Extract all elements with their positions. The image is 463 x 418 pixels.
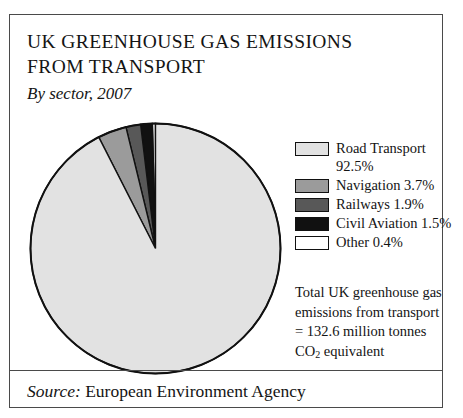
legend-item: Road Transport92.5% — [295, 139, 445, 175]
legend-item: Other 0.4% — [295, 233, 445, 251]
legend-swatch — [295, 236, 329, 250]
note-line: = 132.6 million tonnes — [295, 322, 455, 342]
legend-item: Navigation 3.7% — [295, 176, 445, 194]
note-line: Total UK greenhouse gas — [295, 283, 455, 303]
source-label: Source: — [27, 381, 81, 401]
legend-label-text: Road Transport — [336, 140, 426, 156]
chart-figure: UK GREENHOUSE GAS EMISSIONS FROM TRANSPO… — [9, 14, 443, 408]
co2-subscript: 2 — [315, 349, 320, 360]
chart-total-note: Total UK greenhouse gasemissions from tr… — [295, 283, 455, 362]
legend-swatch — [295, 217, 329, 231]
legend-swatch — [295, 198, 329, 212]
legend-label: Railways 1.9% — [336, 195, 424, 213]
chart-subtitle: By sector, 2007 — [27, 82, 327, 106]
legend-swatch — [295, 142, 329, 156]
title-block: UK GREENHOUSE GAS EMISSIONS FROM TRANSPO… — [27, 29, 327, 106]
source-value: European Environment Agency — [85, 381, 306, 401]
legend-label-percent: 92.5% — [336, 157, 426, 175]
legend-label: Road Transport92.5% — [336, 139, 426, 175]
note-line-co2: CO2 equivalent — [295, 342, 455, 363]
chart-legend: Road Transport92.5%Navigation 3.7%Railwa… — [295, 139, 445, 252]
legend-label: Civil Aviation 1.5% — [336, 214, 451, 232]
legend-swatch — [295, 179, 329, 193]
pie-slice — [30, 124, 280, 374]
legend-label: Navigation 3.7% — [336, 176, 434, 194]
page-title-line-2: FROM TRANSPORT — [27, 54, 327, 79]
note-line: emissions from transport — [295, 303, 455, 323]
source-divider — [10, 370, 442, 371]
legend-item: Railways 1.9% — [295, 195, 445, 213]
legend-item: Civil Aviation 1.5% — [295, 214, 445, 232]
pie-chart — [28, 121, 283, 376]
source-line: Source: European Environment Agency — [27, 379, 306, 403]
pie-chart-svg — [28, 121, 283, 376]
page-title-line-1: UK GREENHOUSE GAS EMISSIONS — [27, 29, 327, 54]
legend-label: Other 0.4% — [336, 233, 403, 251]
